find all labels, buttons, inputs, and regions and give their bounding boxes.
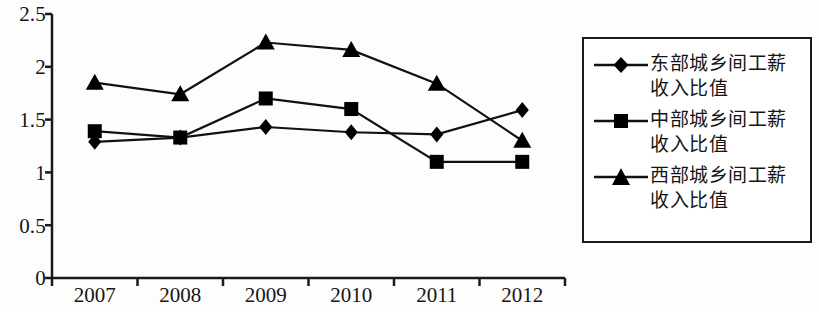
y-axis-tick-label: 2.5 [2,4,46,25]
square-marker-icon [592,108,650,134]
x-axis-tick-label: 2007 [52,283,138,312]
legend-entry-central: 中部城乡间工薪收入比值 [592,107,804,157]
legend-label-west: 西部城乡间工薪收入比值 [650,163,804,213]
x-axis-tick-label: 2012 [480,283,566,312]
legend-entry-east: 东部城乡间工薪收入比值 [592,51,804,101]
y-axis-tick-label: 1.5 [2,110,46,131]
x-axis-tick-label: 2008 [138,283,224,312]
data-point-marker [257,34,275,50]
legend-label-east: 东部城乡间工薪收入比值 [650,51,804,101]
series-diamond [88,102,529,150]
data-point-marker [428,75,446,91]
y-axis-tick-label: 0 [2,268,46,289]
chart-figure: 2.5 2 1.5 1 0.5 0 2007 2008 2009 2010 20… [0,0,819,312]
chart-legend: 东部城乡间工薪收入比值 中部城乡间工薪收入比值 西部城乡间工薪收入比值 [582,37,812,243]
data-point-marker [259,119,272,135]
data-point-marker [173,131,187,145]
x-axis-tick-label: 2009 [223,283,309,312]
triangle-marker-icon [592,164,650,190]
diamond-marker-icon [592,52,650,78]
series-line [95,43,523,141]
x-axis-tick-label: 2010 [309,283,395,312]
x-axis-tick-labels: 2007 2008 2009 2010 2011 2012 [52,283,565,312]
x-axis-tick-label: 2011 [394,283,480,312]
data-point-marker [344,102,358,116]
legend-entry-west: 西部城乡间工薪收入比值 [592,163,804,213]
data-point-marker [345,124,358,140]
legend-label-central: 中部城乡间工薪收入比值 [650,107,804,157]
data-point-marker [516,102,529,118]
data-point-marker [430,126,443,142]
data-point-marker [513,132,531,148]
data-point-marker [259,91,273,105]
line-chart-canvas [0,0,575,312]
y-axis-tick-label: 0.5 [2,216,46,237]
y-axis-tick-labels: 2.5 2 1.5 1 0.5 0 [0,0,46,312]
y-axis-tick-label: 2 [2,57,46,78]
plot-area [0,0,575,312]
data-point-marker [430,155,444,169]
data-point-marker [88,124,102,138]
data-point-marker [515,155,529,169]
y-axis-tick-label: 1 [2,163,46,184]
data-point-marker [86,74,104,90]
